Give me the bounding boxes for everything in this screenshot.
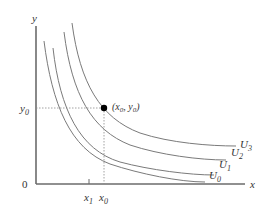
x0-label: x0 xyxy=(98,191,108,206)
point-label: (x0, y0) xyxy=(112,101,140,114)
origin-label: 0 xyxy=(22,178,28,190)
y-axis-label: y xyxy=(31,12,37,24)
u0-label: U0 xyxy=(209,169,221,184)
indifference-curve-diagram: y x 0 y0 x1 x0 (x0, y0) U0 U1 U2 U3 xyxy=(0,0,271,212)
curve-u2 xyxy=(64,32,226,160)
point-x0-y0 xyxy=(101,105,107,111)
u1-label: U1 xyxy=(219,158,231,173)
curve-u3 xyxy=(72,23,236,146)
x-axis-label: x xyxy=(249,178,255,190)
u3-label: U3 xyxy=(240,138,252,153)
x1-label: x1 xyxy=(83,191,93,206)
y0-label: y0 xyxy=(19,102,29,117)
